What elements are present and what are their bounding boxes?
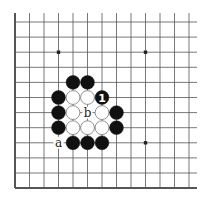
white-stone — [81, 121, 95, 135]
white-stone — [66, 121, 80, 135]
black-stone — [81, 136, 95, 150]
black-stone — [52, 91, 66, 105]
star-point — [144, 141, 147, 144]
black-stone — [52, 121, 66, 135]
point-label-a: a — [55, 136, 62, 150]
black-stone — [95, 136, 109, 150]
black-stone — [81, 76, 95, 90]
white-stone — [66, 106, 80, 120]
star-point — [144, 51, 147, 54]
point-label-b: b — [84, 106, 92, 120]
black-stone — [66, 76, 80, 90]
black-stone — [52, 106, 66, 120]
star-point — [57, 51, 60, 54]
black-stone — [110, 121, 124, 135]
go-board: 1ab — [0, 0, 211, 204]
black-stone — [110, 106, 124, 120]
white-stone — [95, 106, 109, 120]
white-stone — [95, 121, 109, 135]
move-number-label: 1 — [98, 92, 106, 105]
white-stone — [81, 91, 95, 105]
black-stone — [66, 136, 80, 150]
white-stone — [66, 91, 80, 105]
